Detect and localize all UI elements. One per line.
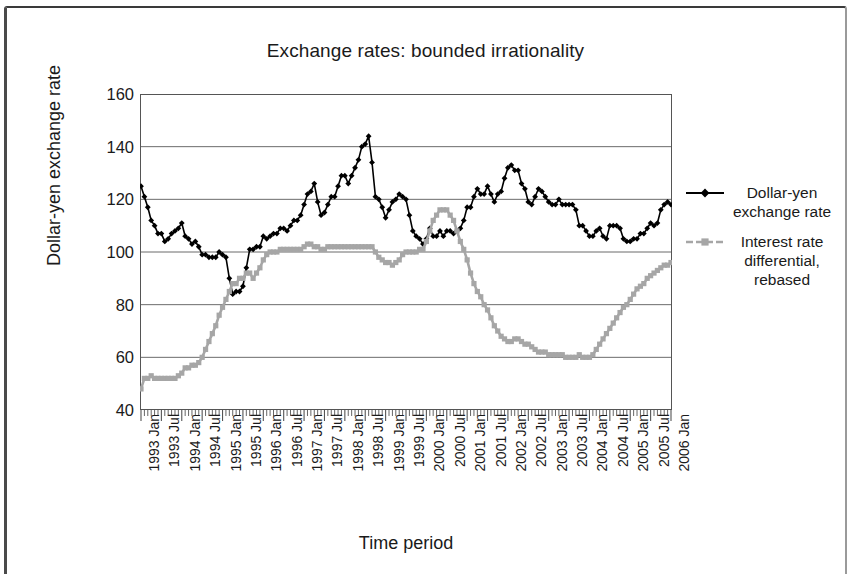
data-point (451, 218, 456, 223)
data-point (366, 133, 372, 139)
data-point (196, 360, 201, 365)
data-point (614, 315, 619, 320)
data-point (475, 289, 480, 294)
x-tick-label: 1993 Jul (166, 414, 182, 467)
data-point (491, 199, 497, 205)
data-point (220, 305, 225, 310)
series-line (141, 136, 671, 294)
y-tick-label: 160 (92, 85, 134, 104)
data-point (379, 204, 385, 210)
data-point (611, 321, 616, 326)
data-point (481, 191, 487, 197)
x-tick-label: 1995 Jul (248, 414, 264, 467)
data-point (301, 202, 307, 208)
x-tick-label: 1999 Jul (411, 414, 427, 467)
data-point (335, 183, 341, 189)
data-point (495, 328, 500, 333)
data-point (315, 199, 321, 205)
x-tick-label: 1997 Jan (309, 414, 325, 472)
y-axis-title: Dollar-yen exchange rate (44, 16, 65, 316)
data-point (624, 302, 629, 307)
x-axis-tick-labels: 1993 Jan1993 Jul1994 Jan1994 Jul1995 Jan… (140, 414, 672, 524)
x-tick-label: 1994 Jan (187, 414, 203, 472)
x-tick-label: 2005 Jul (656, 414, 672, 467)
x-tick-label: 2001 Jul (493, 414, 509, 467)
data-series (140, 133, 672, 297)
data-point (641, 281, 646, 286)
data-point (597, 342, 602, 347)
page-title: Exchange rates: bounded irrationality (0, 40, 851, 62)
data-point (492, 323, 497, 328)
data-point (223, 297, 228, 302)
data-point (311, 181, 317, 187)
legend-item[interactable]: Dollar-yen exchange rate (684, 183, 844, 221)
data-point (141, 194, 147, 200)
x-tick-label: 2002 Jan (513, 414, 529, 472)
data-point (342, 173, 348, 179)
data-point (383, 215, 389, 221)
data-point (590, 352, 595, 357)
y-tick-label: 140 (92, 137, 134, 156)
data-point (397, 257, 402, 262)
data-point (345, 181, 351, 187)
data-point (420, 247, 425, 252)
data-point (243, 265, 249, 271)
data-point (226, 275, 232, 281)
x-tick-label: 1996 Jul (289, 414, 305, 467)
data-point (213, 323, 218, 328)
data-point (515, 167, 521, 173)
x-tick-label: 1993 Jan (146, 414, 162, 472)
x-tick-label: 1998 Jan (350, 414, 366, 472)
data-point (247, 270, 252, 275)
data-point (454, 228, 459, 233)
y-tick-label: 100 (92, 243, 134, 262)
data-point (485, 307, 490, 312)
data-point (373, 249, 378, 254)
data-point (217, 313, 222, 318)
x-tick-label: 2006 Jan (676, 414, 692, 472)
x-tick-label: 2003 Jan (554, 414, 570, 472)
legend-diamond-marker-icon (684, 185, 726, 205)
data-point (478, 294, 483, 299)
data-point (465, 257, 470, 262)
y-tick-label: 40 (92, 401, 134, 420)
data-point (431, 218, 436, 223)
data-point (444, 207, 449, 212)
data-point (631, 292, 636, 297)
data-point (468, 270, 473, 275)
legend-label: Dollar-yen exchange rate (726, 183, 838, 221)
data-point (261, 257, 266, 262)
data-point (532, 194, 538, 200)
x-tick-label: 1994 Jul (207, 414, 223, 467)
data-point (461, 247, 466, 252)
data-point (471, 281, 476, 286)
chart-legend: Dollar-yen exchange rateInterest rate di… (684, 183, 844, 300)
data-point (251, 276, 256, 281)
x-tick-label: 2000 Jan (431, 414, 447, 472)
data-point (140, 386, 144, 391)
data-point (406, 212, 412, 218)
data-point (369, 244, 374, 249)
chart-svg (140, 94, 672, 410)
data-point (349, 173, 355, 179)
y-tick-label: 120 (92, 190, 134, 209)
data-point (369, 160, 375, 166)
data-point (594, 347, 599, 352)
x-tick-label: 2000 Jul (452, 414, 468, 467)
x-tick-label: 2003 Jul (574, 414, 590, 467)
x-tick-label: 1999 Jan (391, 414, 407, 472)
data-point (240, 276, 245, 281)
x-tick-label: 2004 Jan (594, 414, 610, 472)
data-point (386, 207, 392, 213)
data-point (461, 218, 467, 224)
data-point (600, 336, 605, 341)
x-tick-label: 1995 Jan (228, 414, 244, 472)
data-point (482, 302, 487, 307)
data-point (210, 331, 215, 336)
data-point (227, 289, 232, 294)
data-point (488, 191, 494, 197)
legend-label: Interest rate differential, rebased (726, 232, 838, 289)
x-tick-label: 2004 Jul (615, 414, 631, 467)
legend-item[interactable]: Interest rate differential, rebased (684, 232, 844, 289)
data-series-layer (140, 133, 672, 391)
